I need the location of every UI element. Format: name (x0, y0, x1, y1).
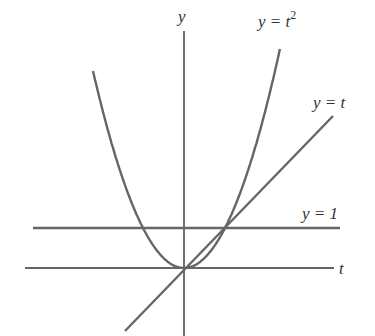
t-axis-label: t (339, 259, 345, 278)
curve-y-equals-t-squared (93, 49, 280, 268)
label-y-equals-t: y = t (311, 93, 347, 112)
y-axis-label: y (176, 7, 186, 26)
label-y-equals-1: y = 1 (300, 204, 338, 223)
label-y-equals-t-squared: y = t2 (256, 8, 296, 31)
chart-canvas: y t y = 1 y = t y = t2 (0, 0, 375, 336)
line-y-equals-t (125, 116, 333, 331)
